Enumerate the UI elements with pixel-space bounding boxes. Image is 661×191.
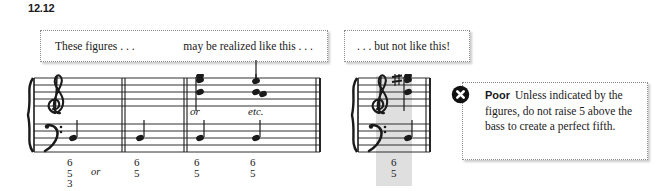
annotation-or: or <box>190 105 200 117</box>
caption-may-be-realized: may be realized like this . . . <box>183 40 313 52</box>
figured-bass-digit: 5 <box>391 168 397 179</box>
staff-left-svg <box>24 74 330 158</box>
figured-bass-or: or <box>91 166 100 177</box>
figured-bass-digit: 5 <box>194 168 200 179</box>
figured-bass-m4: 6 5 <box>250 157 256 178</box>
grand-staff-brace-icon <box>352 78 357 152</box>
staff-right-svg <box>348 74 440 158</box>
poor-callout-text: PoorUnless indicated by the figures, do … <box>485 88 637 135</box>
caption-box-right: . . . but not like this! <box>344 30 470 62</box>
figured-bass-digit: 5 <box>134 168 140 179</box>
annotation-etc: etc. <box>248 105 264 117</box>
caption-but-not-like-this: . . . but not like this! <box>357 40 450 52</box>
caption-these-figures: These figures . . . <box>55 40 135 52</box>
figured-bass-digit: 6 <box>134 157 140 168</box>
figured-bass-digit: 6 <box>250 157 256 168</box>
caption-box-left: These figures . . . may be realized like… <box>40 30 328 62</box>
figured-bass-digit: 6 <box>391 157 397 168</box>
figured-bass-m3: 6 5 <box>194 157 200 178</box>
figured-bass-digit: 3 <box>67 178 73 189</box>
staff-system-left <box>24 74 330 158</box>
treble-clef-icon <box>49 75 64 114</box>
poor-callout-box: PoorUnless indicated by the figures, do … <box>462 82 648 160</box>
figured-bass-m1: 6 5 3 <box>67 157 73 189</box>
figured-bass-right: 6 5 <box>391 157 397 178</box>
figured-bass-digit: 6 <box>67 157 73 168</box>
figured-bass-m2: 6 5 <box>134 157 140 178</box>
x-circle-icon <box>451 85 470 104</box>
figured-bass-digit: 6 <box>194 157 200 168</box>
sharp-sign-icon <box>392 74 402 86</box>
staff-system-right <box>348 74 440 158</box>
treble-chord-right <box>403 74 412 111</box>
figured-bass-digit: 5 <box>250 168 256 179</box>
chord-stem-extension <box>250 60 262 80</box>
poor-label: Poor <box>485 89 510 101</box>
figure-number: 12.12 <box>28 2 55 14</box>
grand-staff-brace-icon <box>28 78 33 152</box>
treble-clef-icon <box>373 75 388 114</box>
